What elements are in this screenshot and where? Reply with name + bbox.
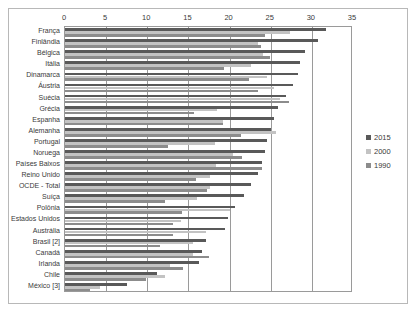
- category-label-17: Estados Unidos: [11, 215, 60, 223]
- bar-1990-4: [65, 78, 249, 81]
- category-label-0: França: [38, 27, 60, 35]
- bar-1990-10: [65, 145, 168, 148]
- bar-1990-15: [65, 200, 165, 203]
- bar-1990-20: [65, 256, 209, 259]
- bar-1990-16: [65, 211, 182, 214]
- x-tick-label-10: 10: [142, 13, 150, 23]
- legend-swatch-icon-2015: [366, 135, 371, 140]
- category-label-19: Brasil [2]: [33, 238, 60, 246]
- category-label-2: Bélgica: [37, 49, 60, 57]
- category-label-15: Suíça: [42, 193, 60, 201]
- bar-1990-19: [65, 245, 160, 248]
- bar-1990-1: [65, 45, 261, 48]
- bar-1990-2: [65, 56, 270, 59]
- category-label-23: México [3]: [28, 282, 60, 290]
- bar-1990-21: [65, 267, 183, 270]
- x-tick-label-25: 25: [266, 13, 274, 23]
- category-label-5: Áustria: [38, 82, 60, 90]
- bar-1990-18: [65, 234, 173, 237]
- x-tick-label-15: 15: [183, 13, 191, 23]
- x-tick-label-0: 0: [62, 13, 66, 23]
- bar-1990-17: [65, 223, 173, 226]
- category-label-6: Suécia: [39, 94, 60, 102]
- bar-1990-12: [65, 167, 262, 170]
- bar-1990-7: [65, 112, 194, 115]
- category-label-12: Países Baixos: [16, 160, 60, 168]
- category-label-4: Dinamarca: [26, 71, 60, 79]
- category-label-20: Canadá: [35, 249, 60, 257]
- legend-item-2000[interactable]: 2000: [366, 144, 410, 158]
- bar-1990-13: [65, 178, 196, 181]
- category-label-10: Portugal: [34, 138, 60, 146]
- chart-legend: 201520001990: [366, 130, 410, 172]
- legend-label-1990: 1990: [374, 161, 391, 170]
- x-tick-label-20: 20: [224, 13, 232, 23]
- legend-label-2015: 2015: [374, 133, 391, 142]
- category-label-7: Grécia: [39, 105, 60, 113]
- bar-1990-6: [65, 101, 289, 104]
- plot-area: [64, 26, 352, 292]
- bar-1990-9: [65, 134, 241, 137]
- bar-1990-8: [65, 123, 223, 126]
- category-label-16: Polônia: [37, 204, 60, 212]
- category-label-18: Austrália: [33, 227, 60, 235]
- x-tick-label-5: 5: [103, 13, 107, 23]
- bar-1990-23: [65, 289, 90, 291]
- y-axis-category-labels: FrançaFinlândiaBélgicaItáliaDinamarcaÁus…: [8, 26, 62, 292]
- category-label-14: OCDE - Total: [19, 182, 60, 190]
- category-label-11: Noruega: [33, 149, 60, 157]
- category-label-13: Reino Unido: [21, 171, 60, 179]
- bar-1990-3: [65, 67, 224, 70]
- chart-container: 05101520253035 FrançaFinlândiaBélgicaItá…: [0, 0, 417, 312]
- x-tick-label-30: 30: [307, 13, 315, 23]
- legend-item-1990[interactable]: 1990: [366, 158, 410, 172]
- category-label-22: Chile: [44, 271, 60, 279]
- bar-1990-11: [65, 156, 242, 159]
- bar-1990-0: [65, 34, 265, 37]
- legend-label-2000: 2000: [374, 147, 391, 156]
- bar-1990-14: [65, 189, 207, 192]
- x-axis-ticks: 05101520253035: [64, 13, 352, 25]
- bars-group: [65, 27, 351, 291]
- category-label-21: Irlanda: [39, 260, 60, 268]
- legend-item-2015[interactable]: 2015: [366, 130, 410, 144]
- legend-swatch-icon-2000: [366, 149, 371, 154]
- bar-1990-5: [65, 90, 258, 93]
- legend-swatch-icon-1990: [366, 163, 371, 168]
- category-label-9: Alemanha: [28, 127, 60, 135]
- category-label-3: Itália: [45, 60, 60, 68]
- x-tick-label-35: 35: [348, 13, 356, 23]
- bar-1990-22: [65, 278, 146, 281]
- category-label-1: Finlândia: [32, 38, 60, 46]
- category-label-8: Espanha: [32, 116, 60, 124]
